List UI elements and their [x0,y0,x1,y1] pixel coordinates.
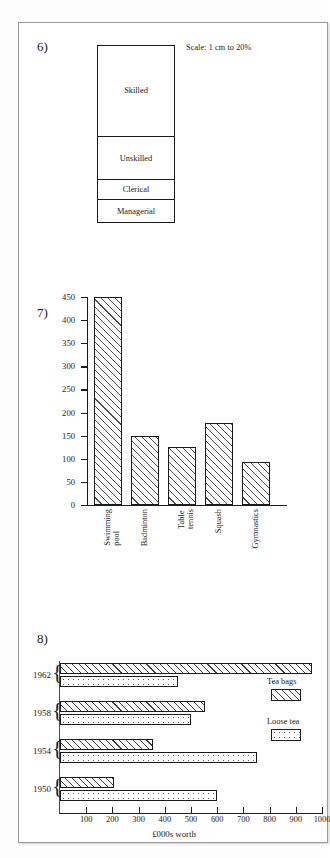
q8-x-tick [139,807,140,813]
q7-y-tick-label: 200 [29,407,75,417]
q8-x-tick-label: 500 [185,815,198,824]
question-8-figure: 8) 1962{1958{1954{1950{ 1002003004005006… [19,621,329,844]
q8-x-tick [86,807,87,813]
q8-bar-tea-bags [60,663,312,674]
q8-legend-swatch-loose-tea [271,729,301,741]
question-7-figure: 7) 050100150200250300350400450 Swimming … [19,285,329,605]
q7-bar [94,297,122,505]
q7-y-tick [81,505,87,506]
q7-y-tick-label: 400 [29,315,75,325]
divided-bar-segment-unskilled: Unskilled [98,137,174,181]
q7-x-tick-label: Badminton [140,509,149,546]
q8-x-tick [322,807,323,813]
q8-x-tick-label: 100 [80,815,93,824]
q8-x-tick [296,807,297,813]
q8-year-label: 1954 [19,746,51,756]
q8-x-tick-label: 200 [106,815,119,824]
q7-y-tick-label: 150 [29,430,75,440]
q8-group-brace: { [52,661,58,683]
q8-group-brace: { [52,699,58,721]
q7-y-tick-label: 0 [29,500,75,510]
q7-x-axis-line [87,505,287,506]
q8-x-tick [217,807,218,813]
segment-label: Unskilled [120,154,153,163]
q7-bar [242,462,270,505]
segment-label: Clerical [123,185,150,194]
q8-x-tick-label: 300 [132,815,145,824]
q7-x-tick-label: Gymnastics [251,509,260,549]
q8-bar-loose-tea [60,714,191,725]
q7-y-tick-label: 350 [29,338,75,348]
segment-label: Managerial [117,207,155,216]
q8-x-tick-label: 1000 [314,815,330,824]
question-6-number: 6) [37,39,48,55]
q8-x-tick-label: 600 [211,815,224,824]
q8-bar-loose-tea [60,790,217,801]
q8-x-tick [270,807,271,813]
q7-x-tick-label: Swimming pool [103,509,122,546]
q7-y-tick-label: 100 [29,453,75,463]
q8-x-tick-label: 900 [290,815,303,824]
divided-bar-segment-clerical: Clerical [98,180,174,200]
q7-plot-area [87,297,273,505]
q8-year-label: 1958 [19,708,51,718]
q8-legend-label: Tea bags [267,677,296,686]
q8-x-tick [112,807,113,813]
q8-x-tick [191,807,192,813]
q7-bar [205,423,233,505]
question-6-scale-note: Scale: 1 cm to 20% [186,43,251,52]
q7-bar [131,436,159,505]
q8-bar-loose-tea [60,752,257,763]
q8-axis-title: £000s worth [59,829,289,839]
q7-y-tick-label: 50 [29,476,75,486]
q7-bar [168,447,196,505]
q7-y-tick-label: 250 [29,384,75,394]
q8-x-tick-label: 800 [263,815,276,824]
q7-y-tick-label: 450 [29,292,75,302]
question-8-number: 8) [37,631,48,647]
q8-x-tick-label: 400 [159,815,172,824]
q8-x-tick [243,807,244,813]
q8-legend-swatch-tea-bags [271,689,301,701]
segment-label: Skilled [124,86,148,95]
q8-legend-label: Loose tea [267,717,299,726]
q8-group-brace: { [52,775,58,797]
q8-group-brace: { [52,737,58,759]
q8-year-label: 1950 [19,784,51,794]
q8-bar-tea-bags [60,739,153,750]
worksheet-page: 6) Scale: 1 cm to 20% SkilledUnskilledCl… [18,22,328,843]
question-6-figure: 6) Scale: 1 cm to 20% SkilledUnskilledCl… [19,23,329,253]
q7-x-tick-label: Squash [214,509,223,533]
q8-x-tick-label: 700 [237,815,250,824]
q8-bar-tea-bags [60,777,114,788]
q8-bar-tea-bags [60,701,205,712]
divided-bar-chart: SkilledUnskilledClericalManagerial [97,45,175,223]
q7-y-tick-label: 300 [29,361,75,371]
divided-bar-segment-skilled: Skilled [98,46,174,137]
q7-x-tick-label: Table tennis [177,509,196,529]
q8-bar-loose-tea [60,676,178,687]
divided-bar-segment-managerial: Managerial [98,200,174,222]
q8-x-tick [165,807,166,813]
q8-year-label: 1962 [19,670,51,680]
